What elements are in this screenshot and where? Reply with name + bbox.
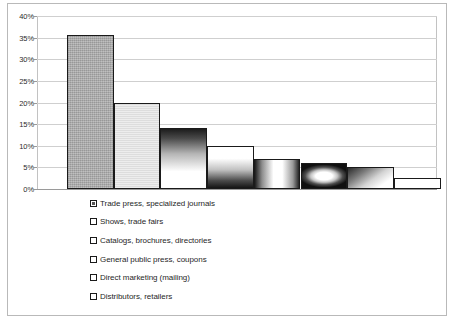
bar [254, 159, 301, 189]
legend-item: Catalogs, brochures, directories [90, 231, 390, 250]
plot-area [37, 16, 437, 189]
legend-item-label: Shows, trade fairs [100, 217, 163, 226]
legend-swatch-icon [90, 274, 97, 281]
y-axis-label: 35% [19, 33, 34, 42]
legend-item: Direct marketing (mailing) [90, 268, 390, 287]
y-axis-tick [33, 16, 37, 17]
y-axis-tick [33, 103, 37, 104]
axis-baseline [37, 189, 437, 190]
y-axis-label: 25% [19, 76, 34, 85]
legend-item-label: Direct marketing (mailing) [100, 273, 190, 282]
legend-swatch-icon [90, 200, 97, 207]
legend-item-label: General public press, coupons [100, 255, 207, 264]
legend-item: General public press, coupons [90, 250, 390, 269]
y-axis-tick [33, 81, 37, 82]
legend-item: Trade press, specialized journals [90, 194, 390, 213]
legend-item: Shows, trade fairs [90, 213, 390, 232]
y-axis-tick [33, 59, 37, 60]
legend-item: Distributors, retailers [90, 287, 390, 306]
bar [67, 35, 114, 189]
bar [114, 103, 161, 190]
bar [301, 163, 348, 189]
y-axis-tick [33, 124, 37, 125]
y-axis-label: 30% [19, 55, 34, 64]
legend-swatch-icon [90, 256, 97, 263]
bar [347, 167, 394, 189]
legend-swatch-icon [90, 237, 97, 244]
y-axis-label: 40% [19, 12, 34, 21]
y-axis-tick-labels: 40%35%30%25%20%15%10%5%0% [8, 16, 34, 189]
y-axis-label: 20% [19, 98, 34, 107]
legend-item-label: Distributors, retailers [100, 292, 172, 301]
chart-frame: 40%35%30%25%20%15%10%5%0% Trade press, s… [7, 3, 447, 316]
chart-legend: Trade press, specialized journalsShows, … [90, 194, 390, 306]
legend-item-label: Trade press, specialized journals [100, 199, 215, 208]
legend-item-label: Catalogs, brochures, directories [100, 236, 211, 245]
y-axis-tick [33, 189, 37, 190]
y-axis-tick [33, 38, 37, 39]
y-axis-tick [33, 146, 37, 147]
bar [160, 128, 207, 189]
legend-swatch-icon [90, 218, 97, 225]
bar [394, 178, 441, 189]
y-axis-label: 15% [19, 120, 34, 129]
legend-swatch-icon [90, 293, 97, 300]
gridline [37, 16, 437, 17]
bar [207, 146, 254, 189]
y-axis-tick [33, 167, 37, 168]
y-axis-label: 10% [19, 141, 34, 150]
